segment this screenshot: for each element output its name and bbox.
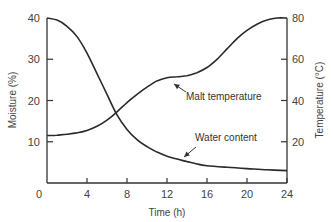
y2-tick-label: 80 [292,12,304,24]
x-axis-title: Time (h) [149,207,186,218]
x-tick-label: 24 [281,188,293,200]
x-tick-label: 4 [84,188,90,200]
annotations: Malt temperatureWater content [174,84,262,157]
malt-temperature-label: Malt temperature [186,91,262,102]
chart: 048121620241020304020406080 Malt tempera… [0,0,333,222]
y-tick-label: 10 [28,136,40,148]
malt-temperature-line [47,18,287,136]
y2-tick-label: 20 [292,136,304,148]
y2-axis-title: Temperature (°C) [314,62,325,139]
x-tick-label: 12 [161,188,173,200]
x-tick-label: 0 [36,188,42,200]
ticks: 048121620241020304020406080 [28,12,305,200]
x-tick-label: 20 [241,188,253,200]
y-tick-label: 40 [28,12,40,24]
y-axis-title: Moisture (%) [7,72,18,129]
water-content-label: Water content [195,132,257,143]
x-tick-label: 16 [201,188,213,200]
y2-tick-label: 40 [292,95,304,107]
y-tick-label: 20 [28,95,40,107]
x-tick-label: 8 [124,188,130,200]
y2-tick-label: 60 [292,53,304,65]
malt-temperature-arrowhead-icon [174,84,180,89]
y-tick-label: 30 [28,53,40,65]
